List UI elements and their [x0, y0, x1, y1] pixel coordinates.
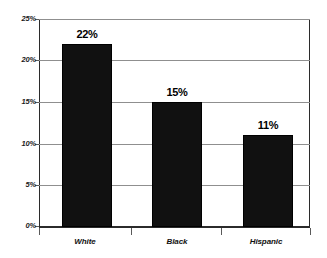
category-label-white: White	[47, 238, 123, 246]
xsep-2	[221, 228, 222, 235]
bar-black[interactable]	[152, 102, 202, 227]
xsep-left	[39, 228, 40, 235]
value-label-black: 15%	[152, 87, 202, 98]
value-label-white: 22%	[62, 29, 112, 40]
value-label-hispanic: 11%	[243, 120, 293, 131]
bar-white[interactable]	[62, 44, 112, 227]
ytick-label-0: 0%	[2, 222, 36, 230]
ytick-label-15: 15%	[2, 98, 36, 106]
bar-chart: 25% 20% 15% 10% 5% 0% 22% 15% 11% White …	[0, 0, 327, 258]
xsep-right	[310, 228, 311, 235]
bar-hispanic[interactable]	[243, 135, 293, 227]
gridline-25	[39, 19, 310, 20]
ytick-label-5: 5%	[2, 181, 36, 189]
category-label-black: Black	[139, 238, 215, 246]
category-label-hispanic: Hispanic	[228, 238, 304, 246]
ytick-label-10: 10%	[2, 140, 36, 148]
xsep-1	[131, 228, 132, 235]
ytick-label-20: 20%	[2, 56, 36, 64]
ytick-label-25: 25%	[2, 15, 36, 23]
